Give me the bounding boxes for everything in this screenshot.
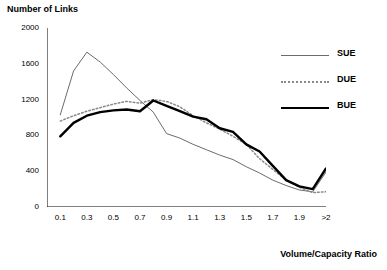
- legend-label: DUE: [337, 74, 356, 84]
- x-axis-label: Volume/Capacity Ratio: [280, 249, 377, 259]
- y-tick-label: 400: [9, 166, 39, 175]
- x-tick-label: >2: [316, 213, 336, 222]
- x-tick-label: 0.3: [77, 213, 97, 222]
- legend-swatch: [281, 55, 329, 56]
- x-tick-label: 1.5: [236, 213, 256, 222]
- y-tick-label: 0: [9, 202, 39, 211]
- x-tick-label: 1.3: [210, 213, 230, 222]
- chart-container: Number of Links 04008001200160020000.10.…: [0, 0, 387, 270]
- x-tick-label: 0.5: [103, 213, 123, 222]
- y-tick-label: 1600: [9, 59, 39, 68]
- y-tick-label: 2000: [9, 23, 39, 32]
- x-tick-label: 1.9: [289, 213, 309, 222]
- y-tick-label: 1200: [9, 95, 39, 104]
- legend-item: BUE: [281, 96, 381, 122]
- y-tick-label: 800: [9, 130, 39, 139]
- x-tick-label: 1.1: [183, 213, 203, 222]
- legend-swatch: [281, 81, 329, 83]
- x-tick-label: 0.7: [130, 213, 150, 222]
- legend-swatch: [281, 107, 329, 109]
- legend-label: BUE: [337, 100, 356, 110]
- x-tick-label: 1.7: [263, 213, 283, 222]
- chart-legend: SUEDUEBUE: [281, 44, 381, 122]
- legend-item: SUE: [281, 44, 381, 70]
- x-tick-label: 0.1: [50, 213, 70, 222]
- chart-title: Number of Links: [7, 4, 78, 14]
- legend-label: SUE: [337, 48, 356, 58]
- legend-item: DUE: [281, 70, 381, 96]
- x-tick-label: 0.9: [157, 213, 177, 222]
